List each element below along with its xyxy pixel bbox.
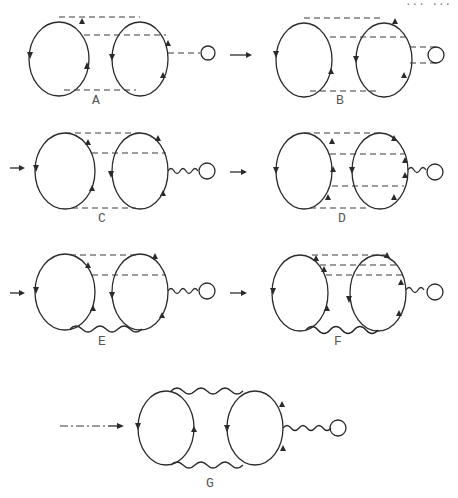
feynman-diagram-sequence: ... ... A B — [0, 0, 458, 498]
panel-label: G — [206, 476, 214, 491]
tadpole-loop — [427, 284, 443, 300]
left-loop — [29, 22, 89, 96]
arrow-up-icon — [330, 166, 336, 172]
panel-c: C — [10, 133, 215, 226]
arrow-down-icon — [270, 288, 276, 295]
panel-label: F — [334, 334, 342, 349]
panel-label: A — [92, 93, 100, 108]
panel-f: F — [230, 252, 443, 349]
tadpole-loop — [199, 283, 215, 299]
arrow-up-icon — [401, 72, 407, 78]
arrow-up-icon — [402, 172, 408, 178]
panel-d: D — [230, 133, 443, 226]
arrow-up-icon — [398, 279, 404, 285]
arrow-up-icon — [191, 426, 197, 432]
arrow-up-icon — [396, 310, 402, 316]
left-loop — [138, 391, 194, 465]
bottom-link-wavy — [70, 326, 142, 332]
arrow-down-icon — [349, 167, 355, 174]
right-link-wavy — [283, 426, 331, 431]
bottom-link-wavy — [171, 462, 243, 468]
arrow-up-icon — [279, 401, 285, 407]
arrow-right-icon — [19, 165, 25, 171]
arrow-down-icon — [109, 54, 115, 61]
tadpole-loop — [428, 47, 444, 63]
arrow-right-icon — [246, 52, 252, 58]
arrow-up-icon — [89, 185, 95, 191]
arrow-down-icon — [109, 292, 115, 299]
arrow-down-icon — [135, 423, 141, 430]
top-link-wavy — [171, 388, 243, 394]
left-loop — [276, 133, 332, 209]
panel-g: G — [60, 388, 346, 491]
arrow-down-icon — [33, 287, 39, 294]
right-loop — [112, 22, 168, 96]
right-loop — [112, 254, 168, 330]
panel-label: C — [98, 211, 106, 226]
right-loop — [350, 255, 406, 331]
tadpole-loop — [427, 164, 443, 180]
right-loop — [227, 391, 283, 465]
arrow-down-icon — [33, 165, 39, 172]
tadpole-loop — [201, 46, 215, 60]
arrow-up-icon — [152, 253, 158, 259]
arrow-up-icon — [329, 138, 335, 144]
right-link-wavy — [168, 289, 198, 294]
arrow-right-icon — [241, 290, 247, 296]
arrow-up-icon — [280, 445, 286, 451]
arrow-up-icon — [85, 139, 91, 145]
arrow-up-icon — [90, 305, 96, 311]
arrow-down-icon — [353, 56, 359, 63]
arrow-right-icon — [241, 169, 247, 175]
right-loop — [112, 133, 168, 209]
arrow-down-icon — [108, 171, 114, 178]
header-corner-text: ... ... — [405, 0, 451, 8]
arrow-down-icon — [27, 52, 33, 59]
right-loop — [352, 133, 408, 209]
tadpole-loop — [330, 420, 346, 436]
arrow-down-icon — [273, 51, 279, 58]
arrow-right-icon — [19, 290, 25, 296]
panel-label: E — [98, 334, 106, 349]
arrow-up-icon — [391, 194, 397, 200]
arrow-up-icon — [155, 135, 161, 141]
arrow-up-icon — [160, 190, 166, 196]
transition-arrow — [230, 52, 252, 58]
right-link-wavy — [408, 168, 426, 173]
arrow-up-icon — [324, 305, 330, 311]
arrow-up-icon — [392, 18, 398, 24]
panel-a: A — [27, 17, 215, 108]
arrow-down-icon — [273, 167, 279, 174]
arrow-up-icon — [328, 68, 334, 74]
right-loop — [356, 23, 412, 97]
arrow-up-icon — [313, 255, 319, 261]
left-loop — [276, 23, 332, 97]
panel-label: D — [338, 211, 346, 226]
tadpole-loop — [199, 163, 215, 179]
right-link-wavy — [406, 288, 424, 293]
left-loop — [272, 255, 328, 331]
panel-label: B — [336, 93, 344, 108]
right-link-wavy — [168, 169, 198, 174]
panel-b: B — [273, 18, 444, 108]
left-loop — [35, 254, 95, 330]
arrow-up-icon — [79, 18, 85, 24]
arrow-down-icon — [224, 425, 230, 432]
arrow-right-icon — [117, 423, 124, 429]
panel-e: E — [10, 253, 215, 349]
